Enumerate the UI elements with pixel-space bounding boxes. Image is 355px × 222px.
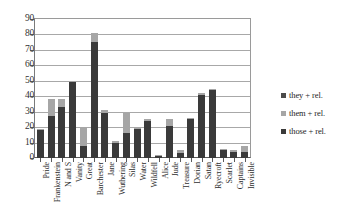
bar-segment — [209, 90, 216, 158]
bar-segment — [80, 127, 87, 146]
bar-segment — [123, 113, 130, 133]
bar-segment — [101, 113, 108, 158]
x-tick-label: Dorian — [194, 162, 202, 184]
x-tick-label: Captains — [237, 162, 245, 189]
y-axis: 9080706050403020100 — [0, 0, 34, 160]
bar-segment — [112, 143, 119, 158]
legend-item: they + rel. — [281, 88, 353, 102]
bar-segment — [166, 126, 173, 158]
bar-column — [177, 150, 184, 158]
bar-segment — [91, 42, 98, 158]
legend-label: those + rel. — [289, 127, 326, 136]
bar-segment — [91, 33, 98, 42]
bar-column — [58, 99, 65, 158]
bar-column — [69, 81, 76, 158]
bar-segment — [198, 95, 205, 158]
legend-swatch-icon — [281, 111, 286, 116]
x-tick-label: Wuthering — [119, 162, 127, 195]
bar-segment — [48, 99, 55, 116]
bar-column — [112, 141, 119, 158]
bar-segment — [37, 130, 44, 158]
bar-column — [220, 149, 227, 158]
bar-column — [166, 119, 173, 158]
x-tick-label: Treasure — [183, 162, 191, 189]
x-tick-label: Vanity — [76, 162, 84, 182]
legend-label: they + rel. — [289, 91, 323, 100]
x-tick-label: Alice — [162, 162, 170, 179]
bar-column — [123, 113, 130, 158]
legend-swatch-icon — [281, 129, 286, 134]
bar-segment — [187, 119, 194, 158]
x-axis-labels: PrideFrankensteinN and SVanityGreatBarch… — [34, 162, 264, 222]
bar-column — [80, 127, 87, 158]
legend-item: those + rel. — [281, 124, 353, 138]
bar-segment — [134, 129, 141, 158]
bar-segment — [220, 150, 227, 158]
legend-item: them + rel. — [281, 106, 353, 120]
bar-segment — [69, 82, 76, 158]
x-tick-label: Ryecroft — [215, 162, 223, 189]
x-tick-label: Invisible — [248, 162, 256, 189]
bar-segment — [58, 107, 65, 158]
legend-label: them + rel. — [289, 109, 325, 118]
x-tick-label: Jane — [108, 162, 116, 176]
x-tick-label: Pride — [43, 162, 51, 178]
bar-segment — [48, 116, 55, 158]
bar-column — [144, 119, 151, 158]
x-tick-label: Barchester — [97, 162, 105, 195]
x-tick-label: Silas — [129, 162, 137, 177]
chart-legend: they + rel.them + rel.those + rel. — [281, 88, 353, 142]
bar-column — [37, 129, 44, 158]
bar-column — [134, 127, 141, 158]
bar-segment — [80, 146, 87, 158]
chart-figure: 9080706050403020100 PrideFrankensteinN a… — [0, 0, 355, 222]
bar-column — [241, 146, 248, 158]
bar-column — [101, 110, 108, 158]
bar-column — [91, 33, 98, 158]
x-tick-label: Scarlet — [226, 162, 234, 184]
x-tick-label: Jude — [172, 162, 180, 176]
bar-column — [48, 99, 55, 158]
x-tick-label: Great — [86, 162, 94, 179]
bars-layer — [35, 19, 250, 158]
x-tick-label: Wildfell — [151, 162, 159, 188]
x-tick-label: N and S — [65, 162, 73, 187]
bar-segment — [123, 133, 130, 158]
x-tick-label: Frankenstein — [54, 162, 62, 202]
bar-column — [187, 118, 194, 158]
x-tick-label: Satan — [205, 162, 213, 179]
bar-segment — [144, 121, 151, 158]
bar-column — [209, 89, 216, 158]
x-tick-label: Water — [140, 162, 148, 180]
bar-segment — [58, 99, 65, 107]
bar-column — [230, 150, 237, 158]
bar-column — [198, 93, 205, 158]
legend-swatch-icon — [281, 93, 286, 98]
